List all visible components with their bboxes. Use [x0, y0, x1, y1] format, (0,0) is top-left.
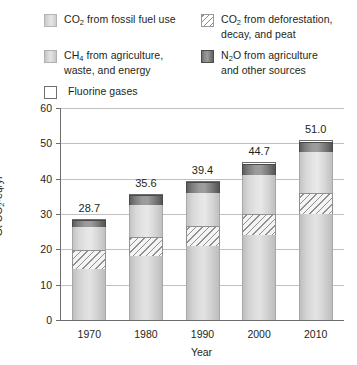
legend-formula-subscript: 2 [229, 54, 233, 63]
x-axis-tick-label: 2000 [247, 328, 270, 340]
x-axis-tick-label: 1970 [78, 328, 101, 340]
bar-segment-ch4[interactable] [129, 205, 163, 237]
y-axis-tick-label: 0 [46, 314, 52, 326]
y-axis-tick [56, 179, 61, 180]
y-axis-tick-label: 20 [40, 243, 52, 255]
bar-segment-ch4[interactable] [299, 152, 333, 193]
y-axis-tick-label: 10 [40, 279, 52, 291]
stacked-bar[interactable] [299, 140, 333, 320]
bar-total-label: 39.4 [192, 164, 213, 176]
y-axis-tick [56, 320, 61, 321]
legend-label-co2-deforestation: CO2 from deforestation, decay, and peat [221, 13, 333, 41]
legend-formula-prefix: CH [64, 49, 79, 61]
bar-segment-ch4[interactable] [72, 227, 106, 250]
legend-item-ch4-agriculture: CH4 from agriculture, waste, and energy [44, 49, 194, 77]
stacked-bar[interactable] [242, 162, 276, 320]
chart-legend: CO2 from fossil fuel use CO2 from defore… [0, 0, 357, 100]
bar-segment-fossil[interactable] [129, 256, 163, 320]
x-axis-tick-label: 2010 [304, 328, 327, 340]
legend-formula-prefix: N [221, 49, 229, 61]
legend-label-co2-fossil: CO2 from fossil fuel use [64, 13, 176, 28]
legend-swatch-co2-deforestation-icon [201, 14, 214, 27]
bar-segment-ch4[interactable] [186, 193, 220, 227]
stacked-bar-chart: Gt CO2-eq/yr 010203040506028.7197035.619… [0, 100, 357, 365]
legend-text-rest: O from agriculture and other sources [221, 49, 318, 76]
bar-segment-n2o[interactable] [72, 220, 106, 227]
y-axis-tick [56, 143, 61, 144]
legend-label-n2o-agriculture: N2O from agriculture and other sources [221, 49, 318, 77]
legend-label-fluorine-gases: Fluorine gases [68, 85, 138, 99]
legend-item-co2-deforestation: CO2 from deforestation, decay, and peat [201, 13, 351, 41]
y-axis-tick-label: 50 [40, 137, 52, 149]
legend-swatch-fluorine-icon [44, 86, 57, 99]
x-axis-tick-label: 1980 [134, 328, 157, 340]
legend-item-fluorine-gases: Fluorine gases [44, 85, 194, 99]
bar-total-label: 44.7 [248, 145, 269, 157]
bar-segment-defor[interactable] [129, 237, 163, 256]
legend-formula-prefix: CO [64, 13, 80, 25]
stacked-bar[interactable] [129, 194, 163, 320]
x-axis-title: Year [60, 346, 343, 358]
y-axis-tick-label: 40 [40, 173, 52, 185]
bar-segment-defor[interactable] [72, 250, 106, 269]
legend-formula-subscript: 2 [80, 18, 84, 27]
bar-segment-n2o[interactable] [186, 182, 220, 193]
bar-group[interactable]: 35.61980 [129, 108, 163, 320]
bar-segment-defor[interactable] [186, 226, 220, 245]
y-axis-title-suffix: -eq/yr [0, 176, 4, 203]
legend-swatch-n2o-icon [201, 50, 214, 63]
legend-item-n2o-agriculture: N2O from agriculture and other sources [201, 49, 351, 77]
stacked-bar[interactable] [186, 181, 220, 320]
y-axis-title-prefix: Gt CO [0, 207, 4, 237]
legend-label-ch4-agriculture: CH4 from agriculture, waste, and energy [64, 49, 163, 77]
bar-segment-fossil[interactable] [299, 214, 333, 320]
bar-segment-n2o[interactable] [299, 142, 333, 153]
bar-group[interactable]: 44.72000 [242, 108, 276, 320]
bar-total-label: 28.7 [79, 202, 100, 214]
y-axis-tick [56, 249, 61, 250]
bar-group[interactable]: 51.02010 [299, 108, 333, 320]
legend-item-co2-fossil: CO2 from fossil fuel use [44, 13, 194, 28]
legend-formula-prefix: CO [221, 13, 237, 25]
bar-group[interactable]: 39.41990 [186, 108, 220, 320]
bar-segment-n2o[interactable] [242, 164, 276, 175]
legend-swatch-co2-fossil-icon [44, 14, 57, 27]
bar-segment-n2o[interactable] [129, 195, 163, 205]
bar-total-label: 51.0 [305, 123, 326, 135]
bar-segment-ch4[interactable] [242, 175, 276, 214]
bar-segment-defor[interactable] [242, 214, 276, 235]
legend-text-rest: from fossil fuel use [84, 13, 176, 25]
legend-formula-subscript: 2 [237, 18, 241, 27]
legend-swatch-ch4-icon [44, 50, 57, 63]
bar-segment-defor[interactable] [299, 193, 333, 214]
y-axis-tick [56, 108, 61, 109]
legend-formula-subscript: 4 [79, 54, 83, 63]
plot-area: 010203040506028.7197035.6198039.4199044.… [60, 108, 344, 321]
y-axis-tick [56, 214, 61, 215]
y-axis-title: Gt CO2-eq/yr [0, 176, 4, 237]
stacked-bar[interactable] [72, 219, 106, 320]
y-axis-tick-label: 30 [40, 208, 52, 220]
bar-segment-fossil[interactable] [186, 246, 220, 320]
y-axis-tick [56, 285, 61, 286]
y-axis-tick-label: 60 [40, 102, 52, 114]
bar-total-label: 35.6 [135, 177, 156, 189]
bar-segment-fossil[interactable] [242, 235, 276, 320]
x-axis-tick-label: 1990 [191, 328, 214, 340]
bar-group[interactable]: 28.71970 [72, 108, 106, 320]
bar-segment-fossil[interactable] [72, 269, 106, 320]
y-axis-title-subscript: 2 [0, 202, 6, 206]
